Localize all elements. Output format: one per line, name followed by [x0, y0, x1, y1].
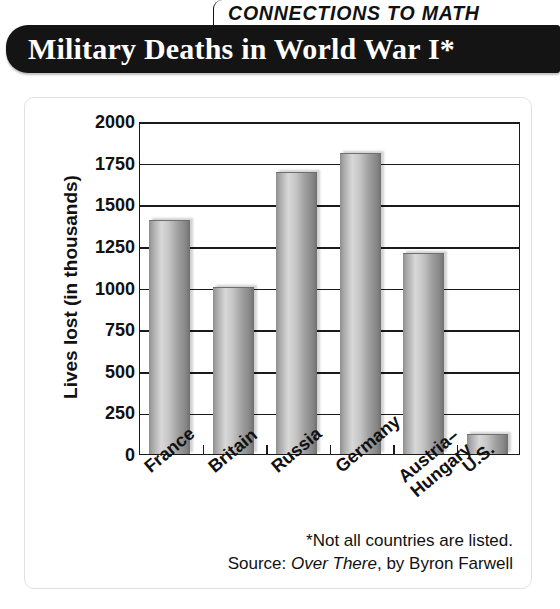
- y-axis-tick-label: 500: [105, 361, 135, 382]
- chart-header: CONNECTIONS TO MATH Military Deaths in W…: [0, 0, 560, 92]
- source-suffix: , by Byron Farwell: [377, 554, 513, 573]
- y-axis-tick-label: 1000: [95, 278, 135, 299]
- x-axis-tick: [266, 445, 268, 454]
- y-axis-tick-label: 250: [105, 403, 135, 424]
- bar[interactable]: [149, 220, 190, 454]
- source-title: Over There: [291, 554, 377, 573]
- bar-series: [140, 123, 519, 454]
- bar[interactable]: [340, 153, 381, 454]
- y-axis-tick-label: 1250: [95, 236, 135, 257]
- y-axis-tick-label: 1750: [95, 153, 135, 174]
- footnote-asterisk: *Not all countries are listed.: [25, 530, 513, 553]
- y-axis-tick-label: 0: [125, 445, 135, 466]
- page-title: Military Deaths in World War I*: [6, 32, 455, 66]
- y-axis-tick-label: 750: [105, 320, 135, 341]
- source-prefix: Source:: [228, 554, 291, 573]
- plot-wrapper: 025050075010001250150017502000: [139, 122, 520, 455]
- bar[interactable]: [403, 253, 444, 454]
- y-axis-tick-labels: 025050075010001250150017502000: [39, 122, 135, 455]
- footnote-source: Source: Over There, by Byron Farwell: [25, 553, 513, 576]
- x-axis-tick: [393, 445, 395, 454]
- kicker-tab: CONNECTIONS TO MATH: [213, 0, 560, 28]
- footnotes: *Not all countries are listed. Source: O…: [25, 530, 531, 576]
- kicker-label: CONNECTIONS TO MATH: [228, 2, 480, 25]
- bar[interactable]: [276, 172, 317, 454]
- plot-area: [139, 122, 520, 455]
- y-axis-tick-label: 2000: [95, 112, 135, 133]
- title-banner: Military Deaths in World War I*: [6, 25, 560, 73]
- chart-card: Lives lost (in thousands) 02505007501000…: [24, 97, 532, 589]
- x-axis-tick: [203, 445, 205, 454]
- x-axis-tick: [330, 445, 332, 454]
- y-axis-tick-label: 1500: [95, 195, 135, 216]
